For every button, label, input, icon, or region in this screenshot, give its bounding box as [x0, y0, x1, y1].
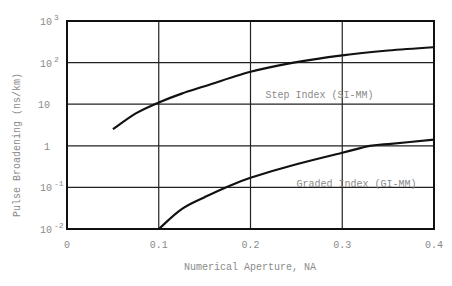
x-tick-label: 0.3 [333, 240, 351, 251]
y-tick-label: 10 [38, 100, 50, 111]
step-index-label: Step Index (SI-MM) [266, 90, 374, 101]
y-axis-label: Pulse Broadening (ns/km) [12, 73, 23, 217]
y-tick-label: 10 [40, 183, 52, 194]
y-tick-label: 10 [40, 17, 52, 28]
step-index-curve [113, 47, 434, 129]
x-axis-label: Numerical Aperture, NA [184, 262, 316, 273]
x-tick-label: 0.1 [150, 240, 168, 251]
y-tick-label: 1 [44, 142, 50, 153]
y-tick-label: 10 [40, 225, 52, 236]
x-tick-label: 0.4 [425, 240, 443, 251]
curves [113, 47, 434, 229]
x-tick-labels: 00.10.20.30.4 [64, 240, 443, 251]
graded-index-label: Graded Index (GI-MM) [296, 179, 416, 190]
y-tick-exponent: 3 [54, 13, 59, 22]
y-tick-exponent: 2 [54, 55, 59, 64]
y-tick-labels: 10310210110-110-2 [38, 13, 64, 236]
x-tick-label: 0 [64, 240, 70, 251]
y-tick-label: 10 [40, 59, 52, 70]
y-tick-exponent: -2 [54, 221, 64, 230]
chart: 00.10.20.30.4 10310210110-110-2 Step Ind… [0, 0, 452, 286]
y-tick-exponent: -1 [54, 179, 64, 188]
x-tick-label: 0.2 [241, 240, 259, 251]
